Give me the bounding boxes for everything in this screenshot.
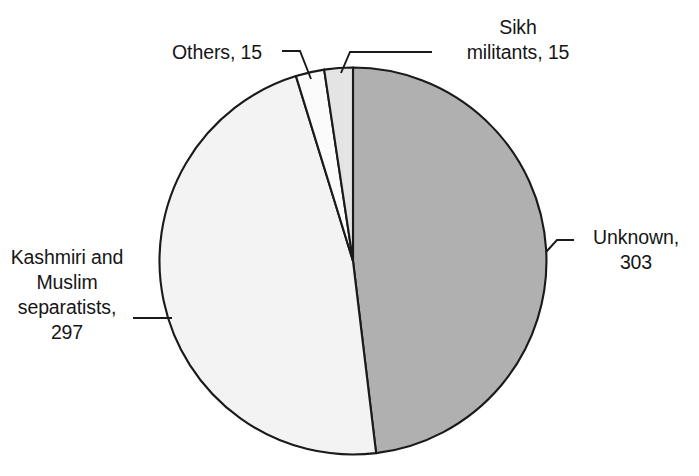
leader-line-unknown [546, 240, 574, 252]
pie-slice-unknown[interactable] [353, 68, 546, 454]
pie-label-unknown: Unknown, 303 [580, 225, 692, 275]
pie-label-sikh-militants: Sikh militants, 15 [438, 15, 598, 65]
pie-chart-figure: Others, 15 Sikh militants, 15 Unknown, 3… [0, 0, 699, 476]
pie-slices [159, 68, 546, 455]
pie-label-kashmiri-muslim-separatists: Kashmiri and Muslim separatists, 297 [2, 245, 132, 345]
pie-label-others: Others, 15 [172, 40, 282, 65]
